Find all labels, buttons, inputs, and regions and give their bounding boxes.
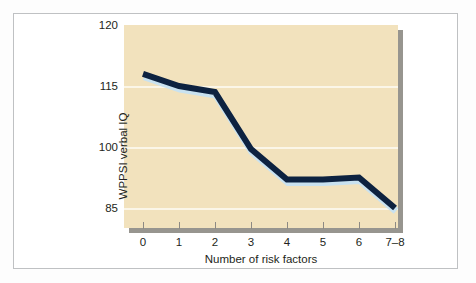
x-tick-mark-7 xyxy=(395,222,396,229)
x-tick-mark-4 xyxy=(287,222,288,229)
x-tick-mark-1 xyxy=(179,222,180,229)
x-tick-label-2: 2 xyxy=(195,236,235,248)
y-axis-title-holder: WPPSI verbal IQ xyxy=(56,40,76,190)
y-tick-label-85: 85 xyxy=(72,203,118,214)
x-tick-label-6: 6 xyxy=(339,236,379,248)
y-tick-label-100: 100 xyxy=(72,142,118,153)
x-tick-mark-5 xyxy=(323,222,324,229)
y-axis-title: WPPSI verbal IQ xyxy=(117,86,129,226)
data-line-group xyxy=(124,25,398,228)
x-tick-label-7: 7–8 xyxy=(375,236,415,248)
series-highlight-line xyxy=(144,77,396,211)
x-tick-label-3: 3 xyxy=(231,236,271,248)
plot-area xyxy=(124,25,398,228)
x-tick-mark-2 xyxy=(215,222,216,229)
x-tick-mark-6 xyxy=(359,222,360,229)
x-tick-label-4: 4 xyxy=(267,236,307,248)
series-line xyxy=(143,74,395,208)
y-tick-label-115: 115 xyxy=(72,81,118,92)
x-axis-title: Number of risk factors xyxy=(124,253,398,265)
line-chart: 120 115 100 85 WPPSI verbal IQ 01234567–… xyxy=(0,0,476,283)
x-tick-mark-0 xyxy=(143,222,144,229)
x-tick-label-1: 1 xyxy=(159,236,199,248)
figure-canvas: 120 115 100 85 WPPSI verbal IQ 01234567–… xyxy=(0,0,476,283)
x-tick-label-0: 0 xyxy=(123,236,163,248)
y-tick-label-120: 120 xyxy=(72,20,118,31)
x-tick-mark-3 xyxy=(251,222,252,229)
x-tick-label-5: 5 xyxy=(303,236,343,248)
